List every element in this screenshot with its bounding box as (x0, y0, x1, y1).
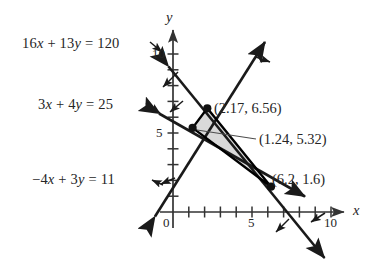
eq1-rhs: 120 (97, 35, 119, 51)
eq1-var-y: y (75, 35, 82, 51)
vertex-label-top: (2.17, 6.56) (214, 101, 282, 116)
eq3-var-x: x (48, 171, 55, 187)
x-tick-label-10: 10 (324, 216, 337, 229)
eq3-plus: + (58, 171, 66, 187)
eq2-equals: = (86, 96, 94, 112)
vertex-label-middle: (1.24, 5.32) (259, 132, 327, 147)
feasible-region (193, 108, 271, 186)
y-tick-label-10: 10 (152, 47, 165, 60)
y-axis-label: y (166, 10, 172, 25)
eq1-coef-y: 13 (60, 35, 75, 51)
eq2-var-y: y (76, 96, 83, 112)
y-tick-label-5: 5 (156, 126, 163, 139)
eq3-coef-x: −4 (32, 171, 48, 187)
eq1-equals: = (85, 35, 93, 51)
eq1-var-x: x (37, 35, 44, 51)
x-tick-label-5: 5 (248, 216, 255, 229)
vertex-label-bottom: (6.2, 1.6) (272, 172, 325, 187)
eq2-coef-y: 4 (68, 96, 75, 112)
direction-arrow-line1 (163, 72, 178, 87)
equation-label-3: −4x + 3y = 11 (32, 172, 115, 187)
eq2-plus: + (56, 96, 64, 112)
eq3-var-y: y (78, 171, 85, 187)
eq3-coef-y: 3 (71, 171, 78, 187)
equation-label-2: 3x + 4y = 25 (38, 97, 113, 112)
eq2-var-x: x (45, 96, 52, 112)
eq1-coef-x: 16 (22, 35, 37, 51)
origin-tick-label: 0 (163, 216, 170, 229)
eq2-rhs: 25 (98, 96, 113, 112)
vertex-dot-middle (189, 124, 197, 132)
x-axis-label: x (353, 203, 359, 218)
equation-label-1: 16x + 13y = 120 (22, 36, 120, 51)
direction-arrow-line3 (256, 57, 270, 62)
direction-arrow-line2 (170, 101, 183, 112)
vertex-dot-top (203, 104, 211, 112)
linear-programming-figure: 16x + 13y = 120 3x + 4y = 25 −4x + 3y = … (0, 0, 377, 259)
eq1-plus: + (47, 35, 55, 51)
eq3-rhs: 11 (101, 171, 115, 187)
eq3-equals: = (88, 171, 96, 187)
